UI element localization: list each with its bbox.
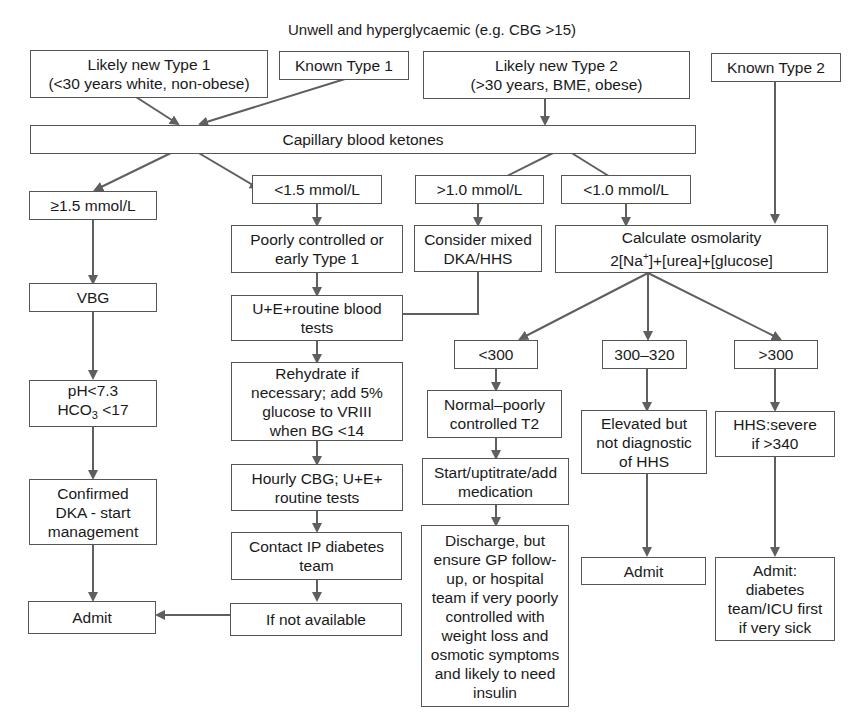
osmolarity-formula: 2[Na+]+[urea]+[glucose] (610, 247, 773, 270)
poorly-controlled-box: Poorly controlled or early Type 1 (231, 225, 403, 273)
hco3-criterion: HCO3 <17 (57, 400, 128, 425)
ketones-gt-1-0-box: >1.0 mmol/L (415, 175, 544, 204)
ph-hco3-box: pH<7.3 HCO3 <17 (29, 380, 157, 427)
likely-new-type2-box: Likely new Type 2 (>30 years, BME, obese… (423, 51, 690, 99)
known-type1-box: Known Type 1 (279, 51, 409, 80)
discharge-box: Discharge, but ensure GP follow- up, or … (421, 525, 569, 707)
start-medication-box: Start/uptitrate/add medication (422, 458, 569, 505)
capillary-ketones-box: Capillary blood ketones (30, 125, 696, 154)
ue-routine-box: U+E+routine blood tests (231, 295, 403, 341)
known-type2-box: Known Type 2 (711, 53, 841, 82)
likely-new-type1-box: Likely new Type 1 (<30 years white, non-… (30, 50, 268, 98)
admit-left-box: Admit (28, 601, 156, 634)
osmolarity-lt-300-box: <300 (454, 340, 538, 369)
hourly-cbg-box: Hourly CBG; U+E+ routine tests (231, 464, 403, 511)
admit-mid-box: Admit (581, 557, 706, 585)
admit-icu-box: Admit: diabetes team/ICU first if very s… (715, 557, 835, 641)
normal-poorly-controlled-box: Normal–poorly controlled T2 (427, 390, 562, 438)
osmolarity-gt-300-box: >300 (734, 340, 818, 369)
if-not-available-box: If not available (230, 603, 402, 636)
rehydrate-box: Rehydrate if necessary; add 5% glucose t… (231, 362, 403, 441)
osmolarity-300-320-box: 300–320 (602, 340, 687, 369)
ketones-ge-1-5-box: ≥1.5 mmol/L (29, 191, 157, 220)
ketones-lt-1-0-box: <1.0 mmol/L (561, 175, 691, 204)
confirmed-dka-box: Confirmed DKA - start management (29, 479, 157, 545)
elevated-not-diagnostic-box: Elevated but not diagnostic of HHS (581, 410, 707, 474)
osmolarity-title: Calculate osmolarity (622, 228, 762, 247)
ph-criterion: pH<7.3 (68, 381, 118, 400)
contact-ip-team-box: Contact IP diabetes team (231, 532, 402, 580)
vbg-box: VBG (29, 283, 157, 312)
hhs-severe-box: HHS:severe if >340 (715, 411, 835, 457)
consider-mixed-box: Consider mixed DKA/HHS (414, 225, 542, 272)
ketones-lt-1-5-box: <1.5 mmol/L (252, 175, 382, 204)
calculate-osmolarity-box: Calculate osmolarity 2[Na+]+[urea]+[gluc… (555, 225, 828, 273)
